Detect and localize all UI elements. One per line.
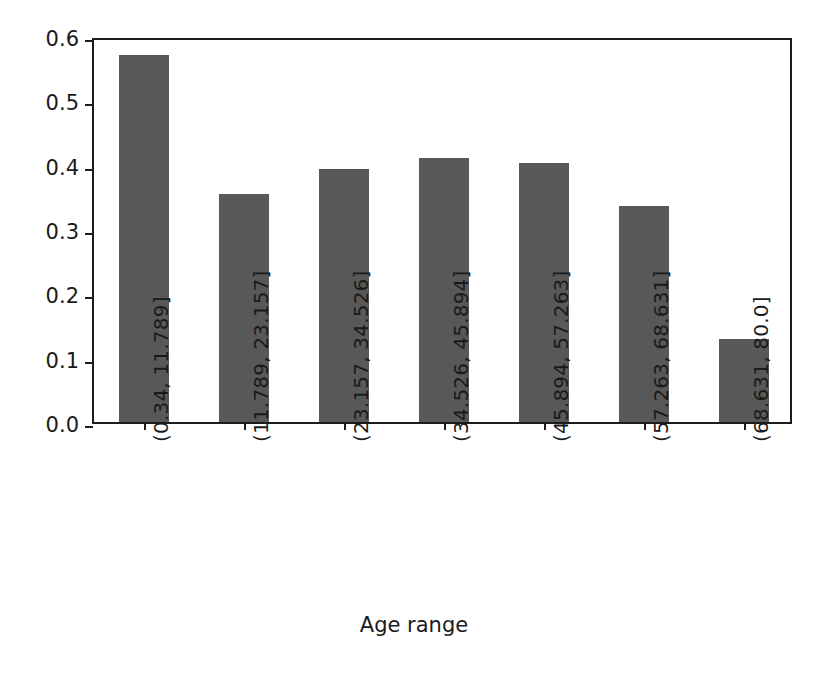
y-tick-mark: 0.1 xyxy=(85,362,93,364)
y-tick-mark: 0.5 xyxy=(85,104,93,106)
y-tick-label: 0.5 xyxy=(46,93,79,114)
y-tick-label: 0.4 xyxy=(46,158,79,179)
y-tick-mark: 0.2 xyxy=(85,297,93,299)
x-tick-mark xyxy=(344,422,346,430)
y-tick-label: 0.1 xyxy=(46,351,79,372)
bars-layer xyxy=(94,40,790,422)
x-tick-label-text: (11.789, 23.157] xyxy=(251,271,271,442)
y-tick-label: 0.3 xyxy=(46,222,79,243)
x-tick-label-text: (45.894, 57.263] xyxy=(551,271,571,442)
x-tick-mark xyxy=(444,422,446,430)
x-tick-label-text: (68.631, 80.0] xyxy=(751,296,771,442)
x-tick-mark xyxy=(144,422,146,430)
y-tick-mark: 0.6 xyxy=(85,40,93,42)
x-tick-label-text: (23.157, 34.526] xyxy=(351,271,371,442)
y-tick-label: 0.6 xyxy=(46,29,79,50)
y-tick-mark: 0.0 xyxy=(85,426,93,428)
x-tick-mark xyxy=(644,422,646,430)
x-tick-mark xyxy=(744,422,746,430)
x-tick-mark xyxy=(244,422,246,430)
x-tick-mark xyxy=(544,422,546,430)
x-tick-label-text: (57.263, 68.631] xyxy=(651,271,671,442)
x-tick-label-text: (0.34, 11.789] xyxy=(151,296,171,442)
bar-chart-figure: 0.00.10.20.30.40.50.6 (0.34, 11.789](11.… xyxy=(0,0,828,676)
y-tick-mark: 0.3 xyxy=(85,233,93,235)
plot-area: 0.00.10.20.30.40.50.6 xyxy=(92,38,792,424)
y-tick-label: 0.2 xyxy=(46,286,79,307)
x-axis-label: Age range xyxy=(0,613,828,637)
x-tick-label-text: (34.526, 45.894] xyxy=(451,271,471,442)
y-tick-label: 0.0 xyxy=(46,415,79,436)
y-tick-mark: 0.4 xyxy=(85,169,93,171)
